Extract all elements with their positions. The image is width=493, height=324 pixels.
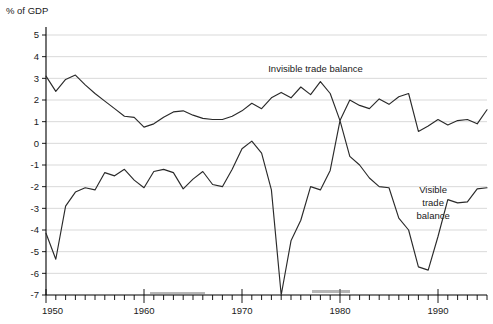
y-tick-label: -2 xyxy=(31,181,39,192)
y-tick-label: 2 xyxy=(34,94,39,105)
chart-container: 543210-1-2-3-4-5-6-7 1950196019701980199… xyxy=(0,0,493,324)
y-tick-label: 4 xyxy=(34,51,39,62)
y-tick-label: -7 xyxy=(31,289,39,300)
y-tick-label: 3 xyxy=(34,73,39,84)
x-tick-label: 1990 xyxy=(427,305,448,316)
y-tick-label: -5 xyxy=(31,246,39,257)
scan-smudge-left xyxy=(150,292,205,295)
y-axis-title: % of GDP xyxy=(6,5,48,16)
x-tick-label: 1970 xyxy=(231,305,252,316)
invisible-trade-balance-label: Invisible trade balance xyxy=(268,63,363,74)
scan-smudge-mid xyxy=(312,290,350,293)
y-tick-label: -4 xyxy=(31,224,39,235)
x-tick-label: 1950 xyxy=(42,305,63,316)
trade-balance-line-chart: 543210-1-2-3-4-5-6-7 1950196019701980199… xyxy=(0,0,493,324)
y-tick-label: 5 xyxy=(34,29,39,40)
y-tick-label: -6 xyxy=(31,268,39,279)
x-tick-label: 1980 xyxy=(329,305,350,316)
y-tick-label: 1 xyxy=(34,116,39,127)
y-tick-label: -1 xyxy=(31,159,39,170)
y-tick-label: 0 xyxy=(34,138,39,149)
chart-background xyxy=(0,0,493,324)
x-tick-label: 1960 xyxy=(133,305,154,316)
y-tick-label: -3 xyxy=(31,203,39,214)
